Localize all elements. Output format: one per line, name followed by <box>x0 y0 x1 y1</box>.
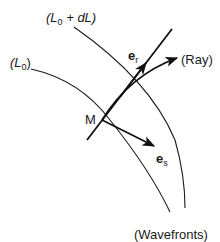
label-vector-es: es <box>156 151 168 168</box>
vector-es-arrow <box>102 120 154 146</box>
label-wavefront-inner: (L0) <box>10 55 31 72</box>
label-wavefronts: (Wavefronts) <box>134 227 208 242</box>
label-wavefront-outer: (L0 + dL) <box>46 10 96 27</box>
label-ray: (Ray) <box>181 52 213 67</box>
label-vector-er: er <box>128 48 138 65</box>
ray-arrow <box>102 58 177 120</box>
wavefront-inner-curve <box>31 69 170 212</box>
wavefront-ray-diagram: (L0 + dL) (L0) M er es (Ray) (Wavefronts… <box>0 0 220 242</box>
label-point-m: M <box>85 112 96 127</box>
